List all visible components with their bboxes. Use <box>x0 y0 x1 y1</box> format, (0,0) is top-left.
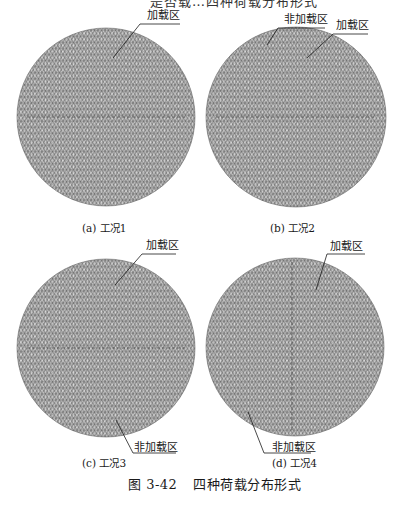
non-loading-zone-label-d: 非加载区 <box>272 442 316 454</box>
figure-number: 图 3-42 <box>128 477 177 492</box>
mesh-panel-c <box>17 254 195 453</box>
loading-zone-label-d: 加载区 <box>330 241 363 253</box>
non-loading-zone-label-c: 非加载区 <box>134 442 178 454</box>
subcaption-case-1: (a) 工况1 <box>82 222 126 234</box>
non-loading-zone-label-b: 非加载区 <box>284 14 328 26</box>
subcaption-case-3: (c) 工况3 <box>82 457 126 469</box>
loading-zone-label-c: 加载区 <box>146 240 179 252</box>
mesh-panel-a <box>17 24 195 206</box>
mesh-panel-d <box>206 254 384 453</box>
loading-zone-label-a: 加载区 <box>147 10 180 22</box>
figure-caption: 图 3-42四种荷载分布形式 <box>128 478 301 492</box>
subcaption-case-4: (d) 工况4 <box>272 457 317 469</box>
loading-zone-label-b: 加载区 <box>336 20 369 32</box>
mesh-panel-b <box>206 27 386 207</box>
subcaption-case-2: (b) 工况2 <box>270 222 315 234</box>
figure-title: 四种荷载分布形式 <box>193 477 301 492</box>
